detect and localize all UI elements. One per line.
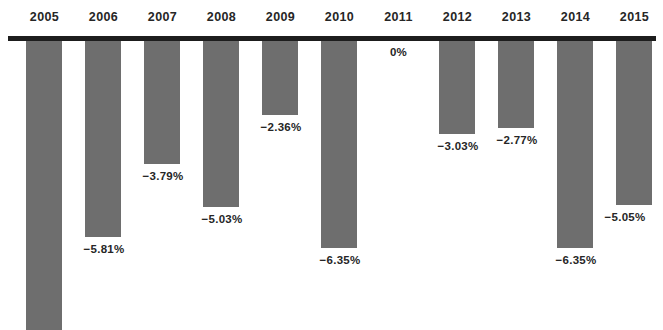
x-axis-tick-label: 2012 <box>428 10 487 24</box>
x-axis-tick-label: 2008 <box>192 10 251 24</box>
bar-column-2015: 2015 −5.05% <box>605 0 663 330</box>
bar-column-2006: 2006 −5.81% <box>74 0 133 330</box>
bar-value-label-2007: −3.79% <box>124 170 202 182</box>
bar-2007[interactable] <box>144 41 180 164</box>
bar-2015[interactable] <box>616 41 652 205</box>
bar-2005[interactable] <box>26 41 62 330</box>
bar-value-label-2010: −6.35% <box>301 254 379 266</box>
bar-column-2010: 2010 −6.35% <box>310 0 369 330</box>
x-axis-tick-label: 2010 <box>310 10 369 24</box>
bar-value-label-2014: −6.35% <box>537 254 615 266</box>
bar-2006[interactable] <box>85 41 121 237</box>
bar-2008[interactable] <box>203 41 239 207</box>
bar-column-2009: 2009 −2.36% <box>251 0 310 330</box>
bar-column-2011: 2011 0% <box>369 0 428 330</box>
bar-2013[interactable] <box>498 41 534 128</box>
bar-column-2012: 2012 −3.03% <box>428 0 487 330</box>
x-axis-tick-label: 2009 <box>251 10 310 24</box>
bar-value-label-2011: 0% <box>369 46 428 58</box>
bar-2012[interactable] <box>439 41 475 134</box>
bar-column-2014: 2014 −6.35% <box>546 0 605 330</box>
bar-column-2005: 2005 <box>15 0 74 330</box>
bar-value-label-2015: −5.05% <box>586 211 663 223</box>
x-axis-tick-label: 2007 <box>133 10 192 24</box>
bar-value-label-2008: −5.03% <box>183 213 261 225</box>
x-axis-tick-label: 2014 <box>546 10 605 24</box>
x-axis-tick-label: 2013 <box>487 10 546 24</box>
bar-column-2013: 2013 −2.77% <box>487 0 546 330</box>
x-axis-tick-label: 2006 <box>74 10 133 24</box>
bar-value-label-2009: −2.36% <box>242 121 320 133</box>
bar-chart: 2005 2006 −5.81% 2007 −3.79% 2008 −5.03%… <box>0 0 663 330</box>
bar-2010[interactable] <box>321 41 357 248</box>
bar-column-2008: 2008 −5.03% <box>192 0 251 330</box>
bar-value-label-2013: −2.77% <box>478 134 556 146</box>
bar-2009[interactable] <box>262 41 298 115</box>
x-axis-tick-label: 2011 <box>369 10 428 24</box>
bar-column-2007: 2007 −3.79% <box>133 0 192 330</box>
x-axis-tick-label: 2005 <box>15 10 74 24</box>
bar-value-label-2006: −5.81% <box>65 243 143 255</box>
x-axis-tick-label: 2015 <box>605 10 663 24</box>
